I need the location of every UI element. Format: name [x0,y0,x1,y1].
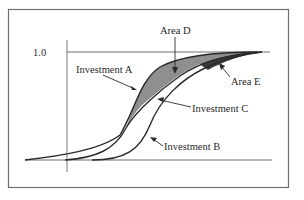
investment-a-label: Investment A [76,64,133,75]
y-tick-label: 1.0 [33,47,46,58]
diagram-canvas: 1.0 Investment A Area D Area E Investmen… [0,0,304,200]
investment-b-label: Investment B [164,141,220,152]
arrowhead-icon [157,97,164,102]
area-e-label: Area E [231,76,260,87]
investment-c-pointer [160,100,191,107]
area-d-shading [126,52,258,128]
investment-c-label: Investment C [192,103,248,114]
area-d-label: Area D [160,25,191,36]
investment-a-pointer [103,75,135,89]
arrowhead-icon [131,86,137,90]
arrowhead-icon [219,63,225,70]
